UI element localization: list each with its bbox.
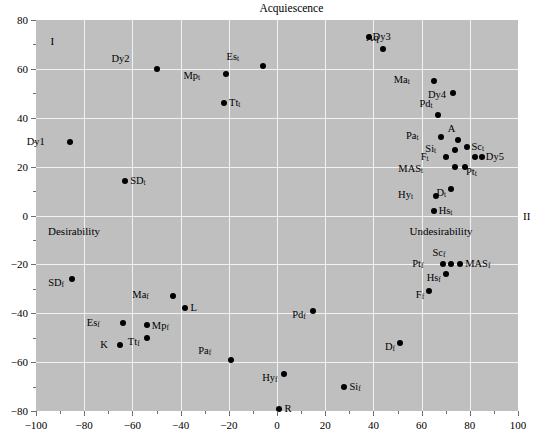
x-tick	[277, 411, 278, 416]
data-point	[448, 186, 454, 192]
data-point-label: Maf	[132, 290, 149, 301]
data-point	[431, 208, 437, 214]
data-point	[228, 357, 234, 363]
data-point-label: Ptf	[412, 259, 423, 270]
y-tick-label: 80	[0, 15, 28, 26]
data-point-label: Pdt	[419, 99, 432, 110]
x-tick-label: 100	[488, 420, 543, 431]
data-point	[120, 320, 126, 326]
x-tick-minor	[108, 411, 109, 414]
y-tick-label: −80	[0, 406, 28, 417]
gridline-horizontal	[36, 118, 518, 119]
data-point-label: L	[190, 303, 196, 314]
x-tick	[422, 411, 423, 416]
data-point	[431, 78, 437, 84]
data-point-label: Mat	[394, 75, 410, 86]
y-tick	[31, 69, 36, 70]
y-tick-label: −40	[0, 308, 28, 319]
data-point-label: Mpt	[183, 71, 200, 82]
data-point-label: Paf	[198, 346, 211, 357]
data-point-label: Dy2	[112, 54, 130, 65]
data-point-label: Hyt	[398, 190, 413, 201]
y-tick-label: −60	[0, 357, 28, 368]
data-point	[154, 66, 160, 72]
y-tick-minor	[33, 289, 36, 290]
gridline-horizontal	[36, 167, 518, 168]
data-point-label: A	[448, 124, 456, 135]
y-tick-minor	[33, 44, 36, 45]
x-tick-minor	[301, 411, 302, 414]
x-tick-minor	[446, 411, 447, 414]
y-tick	[31, 20, 36, 21]
y-tick-label: 60	[0, 64, 28, 75]
data-point	[452, 147, 458, 153]
data-point-label: Hyf	[262, 373, 277, 384]
data-point-label: Ttf	[128, 337, 140, 348]
gridline-horizontal	[36, 313, 518, 314]
data-point-label: R	[284, 404, 291, 415]
x-tick	[373, 411, 374, 416]
y-tick	[31, 362, 36, 363]
data-point-label: Ptt	[466, 167, 477, 178]
data-point-label: SDf	[48, 278, 64, 289]
y-tick-label: −20	[0, 259, 28, 270]
x-tick	[518, 411, 519, 416]
x-tick-minor	[398, 411, 399, 414]
data-point	[452, 164, 458, 170]
data-point	[397, 340, 403, 346]
gridline-horizontal	[36, 69, 518, 70]
x-tick-minor	[60, 411, 61, 414]
y-tick	[31, 313, 36, 314]
y-tick-minor	[33, 338, 36, 339]
quadrant-label-II: II	[523, 210, 530, 222]
y-tick-label: 0	[0, 211, 28, 222]
y-tick-minor	[33, 93, 36, 94]
data-point-label: Pdf	[292, 310, 306, 321]
x-tick	[325, 411, 326, 416]
y-tick	[31, 167, 36, 168]
y-tick-minor	[33, 387, 36, 388]
data-point	[443, 271, 449, 277]
data-point-label: Ff	[416, 290, 424, 301]
data-point-label: Sct	[471, 142, 484, 153]
data-point-label: Ft	[421, 152, 429, 163]
x-tick-minor	[253, 411, 254, 414]
y-tick-minor	[33, 240, 36, 241]
data-point	[260, 63, 266, 69]
data-point-label: SDt	[130, 176, 146, 187]
data-point	[221, 100, 227, 106]
x-tick	[132, 411, 133, 416]
data-point	[310, 308, 316, 314]
data-point-label: Scf	[433, 248, 446, 259]
data-point	[472, 154, 478, 160]
data-point-label: Dy5	[486, 152, 504, 163]
x-tick-minor	[205, 411, 206, 414]
data-point	[448, 261, 454, 267]
quadrant-label-I: I	[50, 35, 54, 47]
axis-label-acquiescence: Acquiescence	[259, 2, 323, 14]
data-point	[455, 137, 461, 143]
data-point-label: Df	[385, 342, 395, 353]
y-tick-label: 40	[0, 113, 28, 124]
y-tick	[31, 411, 36, 412]
x-tick-minor	[349, 411, 350, 414]
data-point-label: Pat	[406, 131, 419, 142]
data-point-label: K	[100, 340, 108, 351]
data-point-label: Esf	[87, 318, 100, 329]
data-point	[433, 193, 439, 199]
data-point-label: MASf	[465, 259, 490, 270]
data-point-label: Ttt	[229, 98, 240, 109]
data-point	[479, 154, 485, 160]
data-point-label: Est	[227, 52, 240, 63]
gridline-horizontal	[36, 362, 518, 363]
data-point	[443, 154, 449, 160]
y-tick-minor	[33, 191, 36, 192]
y-tick-label: 20	[0, 162, 28, 173]
data-point-label: Aq	[366, 33, 379, 44]
x-tick-minor	[494, 411, 495, 414]
x-tick	[470, 411, 471, 416]
x-tick	[181, 411, 182, 416]
x-tick	[84, 411, 85, 416]
y-tick	[31, 264, 36, 265]
data-point-label: Hst	[439, 206, 453, 217]
